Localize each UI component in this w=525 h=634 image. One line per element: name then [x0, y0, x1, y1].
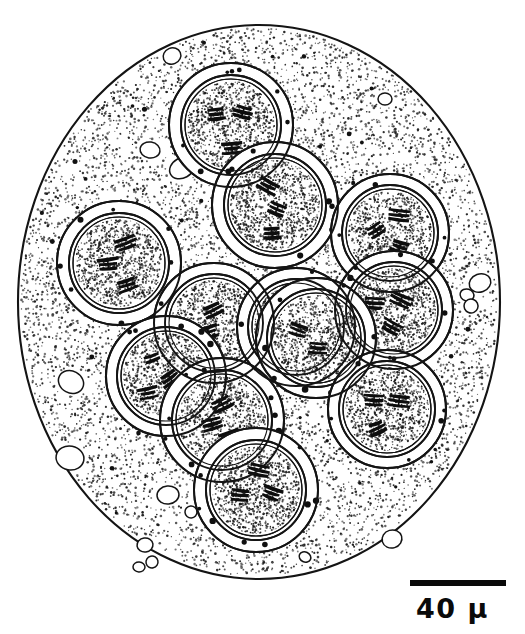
vacuole — [145, 555, 159, 569]
cell-illustration — [0, 0, 525, 634]
vacuole — [380, 527, 404, 550]
scale-bar-rule — [410, 580, 506, 586]
vacuole — [139, 141, 161, 160]
vacuole — [54, 366, 87, 398]
vacuole — [54, 444, 86, 473]
nuclei-layer — [57, 63, 453, 552]
chromosome-bivalent — [387, 394, 410, 408]
vacuole — [133, 562, 145, 573]
chromosome-bivalent — [364, 394, 385, 407]
chromosome-bivalent — [308, 342, 328, 355]
vacuole — [156, 485, 180, 505]
vacuole — [185, 506, 198, 519]
chromosome-bivalent — [207, 107, 226, 121]
chromosome-bivalent — [231, 488, 250, 502]
chromosome-bivalent — [263, 226, 282, 240]
figure-root: 40 μ — [0, 0, 525, 634]
scale-bar-label: 40 μ — [416, 595, 489, 622]
vacuole — [297, 550, 312, 564]
vacuole — [378, 93, 392, 105]
